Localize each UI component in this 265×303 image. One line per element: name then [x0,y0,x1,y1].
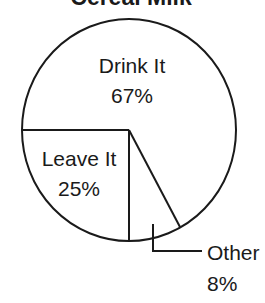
pie-chart-svg: Cereal Milk Drink It 67% Leave It 25% Ot… [0,0,265,303]
slice-label-drink-it: Drink It [99,54,166,77]
slice-value-drink-it: 67% [111,84,153,107]
slice-label-leave-it: Leave It [42,147,117,170]
slice-label-other: Other [207,241,260,264]
pie-chart: Cereal Milk Drink It 67% Leave It 25% Ot… [0,0,265,303]
slice-value-other: 8% [207,272,237,295]
slice-value-leave-it: 25% [58,177,100,200]
chart-title: Cereal Milk [70,0,192,10]
